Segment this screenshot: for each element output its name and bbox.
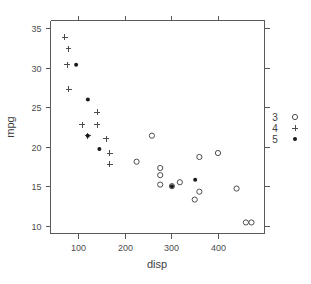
data-point xyxy=(97,147,101,151)
y-tick-label: 30 xyxy=(31,64,41,74)
legend-label-3: 3 xyxy=(272,112,278,123)
x-tick-label: 100 xyxy=(71,243,86,253)
legend-label-5: 5 xyxy=(272,134,278,145)
legend-marker-5 xyxy=(293,137,297,141)
legend-label-4: 4 xyxy=(272,123,278,134)
y-tick-label: 10 xyxy=(31,222,41,232)
data-point xyxy=(74,63,78,67)
data-point xyxy=(86,97,90,101)
x-tick-label: 300 xyxy=(164,243,179,253)
scatter-plot-figure: 100200300400 101520253035 disp mpg 345 xyxy=(0,0,311,284)
y-tick-label: 20 xyxy=(31,143,41,153)
y-tick-label: 15 xyxy=(31,182,41,192)
data-point xyxy=(86,134,90,138)
y-tick-label: 35 xyxy=(31,24,41,34)
x-tick-label: 200 xyxy=(118,243,133,253)
y-tick-label: 25 xyxy=(31,103,41,113)
x-axis-title: disp xyxy=(147,258,167,270)
plot-canvas: 100200300400 101520253035 disp mpg 345 xyxy=(0,0,311,284)
data-point xyxy=(193,178,197,182)
data-point xyxy=(170,184,174,188)
y-axis-title: mpg xyxy=(4,116,16,137)
x-tick-label: 400 xyxy=(211,243,226,253)
